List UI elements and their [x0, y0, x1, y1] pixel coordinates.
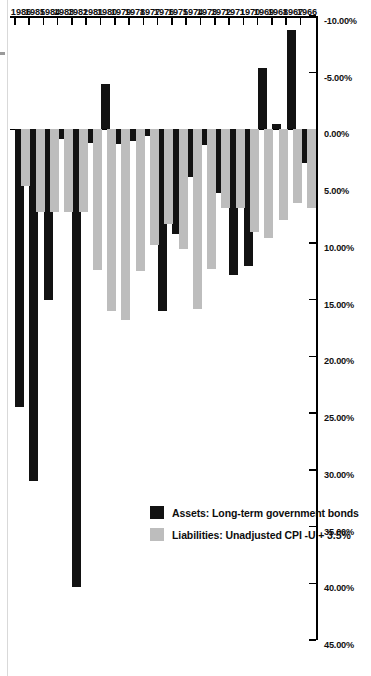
bar-assets-1969 [258, 68, 267, 129]
category-axis-tick [243, 17, 245, 25]
bar-liabilities-1971 [236, 129, 245, 207]
category-axis-tick-label: 1986 [11, 7, 31, 17]
bar-liabilities-1974 [193, 129, 202, 308]
value-axis-tick [309, 639, 316, 640]
category-axis-tick [185, 17, 187, 25]
value-axis-tick-label: 30.00% [324, 470, 354, 480]
category-axis-tick [128, 17, 130, 25]
bar-liabilities-1983 [64, 129, 73, 212]
bar-liabilities-1967 [293, 129, 302, 203]
bar-liabilities-1979 [121, 129, 130, 320]
value-axis-tick [309, 356, 316, 357]
value-axis-tick-label: 0.00% [324, 129, 349, 139]
rotated-chart-wrapper: 45.00%40.00%35.00%30.00%25.00%20.00%15.0… [0, 0, 371, 676]
plot-area: 45.00%40.00%35.00%30.00%25.00%20.00%15.0… [0, 0, 371, 676]
category-axis-tick [71, 17, 73, 25]
value-axis-tick-label: 15.00% [324, 300, 354, 310]
bar-liabilities-1972 [221, 129, 230, 207]
category-axis-tick [57, 17, 59, 25]
bar-liabilities-1985 [36, 129, 45, 212]
category-axis-tick [114, 17, 116, 25]
bar-liabilities-1978 [136, 129, 145, 271]
value-axis-tick-label: 25.00% [324, 413, 354, 423]
chart-legend: Assets: Long-term government bondsLiabil… [150, 506, 359, 550]
bar-liabilities-1986 [21, 129, 30, 186]
category-axis-tick [257, 17, 259, 25]
category-axis-tick [271, 17, 273, 25]
category-axis-tick [28, 17, 30, 25]
category-axis-tick [200, 17, 202, 25]
bar-liabilities-1976 [164, 129, 173, 223]
value-axis-tick [309, 242, 316, 243]
bar-liabilities-1973 [207, 129, 216, 269]
bar-liabilities-1977 [150, 129, 159, 245]
bar-liabilities-1966 [307, 129, 316, 207]
value-axis-tick-label: 20.00% [324, 356, 354, 366]
bar-liabilities-1969 [264, 129, 273, 238]
value-axis-tick-label: 45.00% [324, 640, 354, 650]
category-axis-tick [171, 17, 173, 25]
value-axis-tick [309, 412, 316, 413]
value-axis-tick [309, 583, 316, 584]
bar-assets-1980 [101, 84, 110, 129]
category-axis-tick [143, 17, 145, 25]
bar-liabilities-1968 [279, 129, 288, 220]
category-axis-tick [285, 17, 287, 25]
value-axis-tick-label: 40.00% [324, 583, 354, 593]
category-axis-tick [228, 17, 230, 25]
category-axis-tick [214, 17, 216, 25]
category-axis-tick [14, 17, 16, 25]
legend-swatch-liab [150, 528, 164, 541]
legend-label-assets: Assets: Long-term government bonds [172, 507, 359, 519]
bar-liabilities-1984 [50, 129, 59, 212]
value-axis-tick-label: -10.00% [324, 16, 357, 26]
value-axis-tick-label: 10.00% [324, 243, 354, 253]
legend-item-liab: Liabilities: Unadjusted CPI -U + 3.5% [150, 528, 359, 541]
value-axis-tick [309, 469, 316, 470]
value-axis-tick [309, 72, 316, 73]
value-axis-tick-label: -5.00% [324, 73, 352, 83]
chart-page: 45.00%40.00%35.00%30.00%25.00%20.00%15.0… [0, 0, 371, 676]
category-axis-tick [43, 17, 45, 25]
category-axis-tick [300, 17, 302, 25]
bar-liabilities-1981 [93, 129, 102, 270]
bar-liabilities-1970 [250, 129, 259, 231]
category-axis-tick [100, 17, 102, 25]
value-axis-tick [309, 299, 316, 300]
category-axis-tick [85, 17, 87, 25]
bar-assets-1967 [287, 30, 296, 130]
bar-liabilities-1975 [179, 129, 188, 248]
category-axis-tick [157, 17, 159, 25]
legend-item-assets: Assets: Long-term government bonds [150, 506, 359, 519]
value-axis-tick-label: 5.00% [324, 186, 349, 196]
bar-liabilities-1982 [79, 129, 88, 212]
legend-swatch-assets [150, 506, 164, 519]
bar-liabilities-1980 [107, 129, 116, 311]
legend-label-liab: Liabilities: Unadjusted CPI -U + 3.5% [172, 529, 351, 541]
